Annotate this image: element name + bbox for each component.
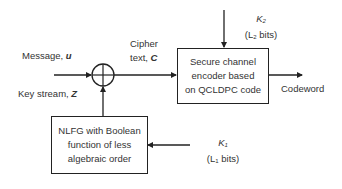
key1-label: K1 (L1 bits)	[203, 136, 243, 168]
nlfg-box: NLFG with Boolean function of less algeb…	[51, 116, 148, 174]
secure-channel-encoder-box: Secure channel encoder based on QCLDPC c…	[177, 48, 269, 104]
key2-label: K2 (L2 bits)	[241, 12, 281, 44]
key-stream-symbol: Z	[71, 88, 77, 99]
cipher-text-symbol: C	[151, 52, 158, 63]
codeword-label: Codeword	[281, 82, 324, 96]
message-symbol: u	[66, 50, 72, 61]
cipher-text-label: Cipher text, C	[130, 37, 158, 65]
key-stream-label: Key stream, Z	[18, 87, 77, 101]
message-label: Message, u	[22, 49, 72, 63]
